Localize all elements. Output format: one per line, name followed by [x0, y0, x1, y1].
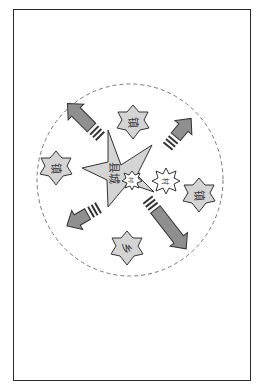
town-right-label: 镇 — [192, 190, 206, 201]
township-label: 乡 — [120, 243, 133, 254]
village-center-label: 村 — [128, 177, 135, 183]
county-town-star: 县城 — [82, 130, 154, 207]
village-burst-center: 村 — [122, 171, 142, 190]
town-star-right: 镇 — [183, 178, 215, 212]
township-star-bottom: 乡 — [111, 231, 143, 265]
town-star-top: 镇 — [117, 105, 149, 139]
town-left-label: 镇 — [49, 163, 63, 174]
town-star-left: 镇 — [40, 151, 72, 185]
county-town-label: 县城 — [107, 162, 120, 184]
arrow-down-left — [61, 198, 103, 235]
arrow-down-right — [139, 193, 195, 255]
diagram-canvas: 县城 村 村 镇 镇 镇 乡 — [0, 0, 263, 392]
arrow-up-right — [160, 111, 200, 153]
arrow-up-left — [60, 96, 108, 144]
town-top-label: 镇 — [126, 117, 140, 128]
village-right-label: 村 — [161, 178, 170, 185]
village-burst-right: 村 — [152, 168, 180, 194]
